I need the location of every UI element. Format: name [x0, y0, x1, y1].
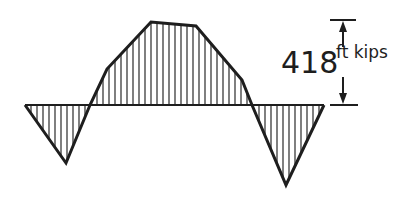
bending-moment-diagram: 418 ft kips: [0, 0, 418, 207]
diagram-hatching: [31, 22, 319, 179]
dimension-unit: ft kips: [336, 42, 388, 62]
arrow-down-icon: [339, 93, 347, 104]
dimension-value: 418: [281, 45, 338, 80]
arrow-up-icon: [339, 21, 347, 32]
